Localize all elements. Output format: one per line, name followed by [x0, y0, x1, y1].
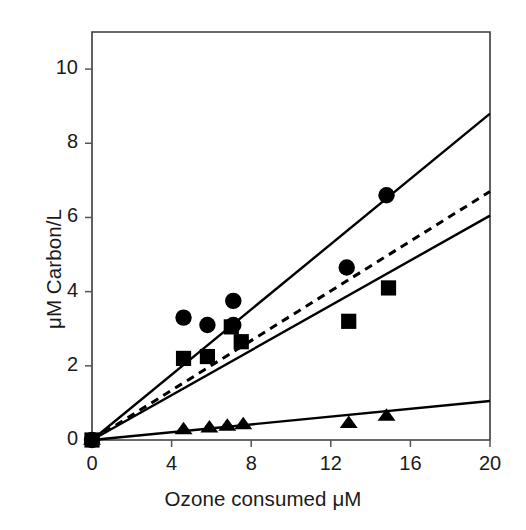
data-point-triangle: [234, 417, 252, 430]
y-tick-label: 2: [34, 353, 78, 376]
x-tick-label: 12: [309, 452, 353, 475]
data-point-triangle: [340, 416, 358, 429]
data-point-square: [381, 280, 396, 295]
x-axis-label: Ozone consumed μM: [0, 487, 526, 511]
x-tick-label: 16: [388, 452, 432, 475]
tick-marks: [85, 69, 490, 447]
x-tick-label: 8: [229, 452, 273, 475]
data-point-triangle: [200, 420, 218, 433]
data-point-square: [341, 314, 356, 329]
x-tick-label: 0: [70, 452, 114, 475]
data-point-circle: [175, 309, 191, 325]
data-point-square: [176, 351, 191, 366]
data-point-square: [234, 334, 249, 349]
y-tick-label: 6: [34, 204, 78, 227]
scatter-plot-canvas: [0, 0, 526, 530]
data-point-square: [200, 349, 215, 364]
y-tick-label: 0: [34, 427, 78, 450]
data-point-circle: [339, 259, 355, 275]
x-tick-label: 4: [150, 452, 194, 475]
circle-fit-line: [92, 114, 490, 440]
data-point-triangle: [175, 422, 193, 435]
dashed-fit-line: [92, 191, 490, 440]
axis-frame-lines: [92, 32, 490, 440]
plot-frame: [92, 32, 490, 440]
y-tick-label: 10: [34, 56, 78, 79]
data-point-circle: [225, 293, 241, 309]
x-tick-label: 20: [468, 452, 512, 475]
trend-lines: [92, 114, 490, 440]
data-point-circle: [378, 187, 394, 203]
data-point-square: [224, 319, 239, 334]
chart-figure: Ozone consumed μM μM Carbon/L 048121620 …: [0, 0, 526, 530]
data-point-triangle: [218, 418, 236, 431]
y-tick-label: 4: [34, 279, 78, 302]
y-tick-label: 8: [34, 130, 78, 153]
data-point-circle: [199, 317, 215, 333]
